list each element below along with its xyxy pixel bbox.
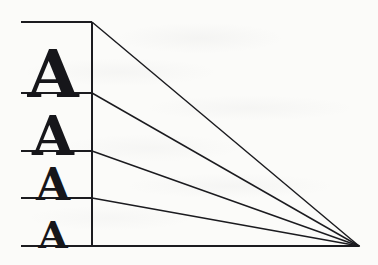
perspective-figure: AAAA [0,0,378,265]
letter-a-1: A [0,41,119,107]
letter-a-2: A [0,109,107,163]
letter-a-3: A [9,163,97,207]
letter-a-4: A [15,216,91,254]
letter-glyph-layer: AAAA [0,0,378,265]
